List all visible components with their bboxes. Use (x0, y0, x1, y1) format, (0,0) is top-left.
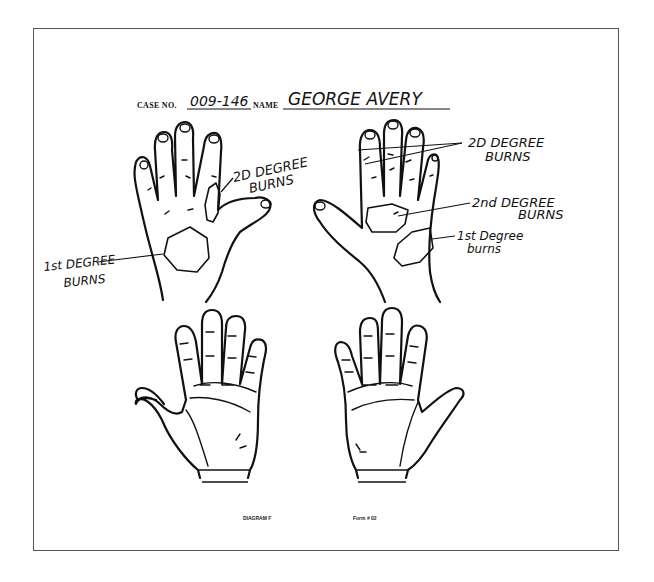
label-palm-2nd-degree-line2: BURNS (518, 207, 563, 222)
burn-area-1st-degree (164, 227, 209, 272)
burn-area-2nd-degree-palm (366, 204, 408, 232)
case-label: CASE NO. (137, 101, 177, 110)
label-1st-degree-line2: BURNS (63, 272, 107, 290)
patient-name: GEORGE AVERY (288, 89, 423, 109)
label-1st-degree-line1: 1st Degree (457, 229, 523, 243)
hand-back-left: 2D DEGREE BURNS 1st DEGREE BURNS (43, 122, 310, 302)
label-1st-degree-line2: burns (467, 242, 501, 256)
label-fingers-2nd-degree-line2: BURNS (485, 149, 530, 164)
label-fingers-2nd-degree-line1: 2D DEGREE (468, 135, 545, 150)
case-header: CASE NO. 009-146 NAME GEORGE AVERY (137, 89, 450, 110)
burn-chart-drawing: CASE NO. 009-146 NAME GEORGE AVERY 2D DE… (0, 0, 654, 582)
hand-palm-right (335, 308, 463, 482)
hand-palm-left (136, 310, 266, 482)
case-number: 009-146 (190, 93, 249, 109)
hand-back-right: 2D DEGREE BURNS 2nd DEGREE BURNS 1st Deg… (314, 120, 563, 302)
form-code: Form # 02 (353, 515, 377, 521)
diagram-label: DIAGRAM F (243, 515, 271, 521)
label-1st-degree-line1: 1st DEGREE (43, 252, 117, 273)
name-label: NAME (253, 101, 279, 110)
burn-area-1st-degree (394, 228, 433, 266)
